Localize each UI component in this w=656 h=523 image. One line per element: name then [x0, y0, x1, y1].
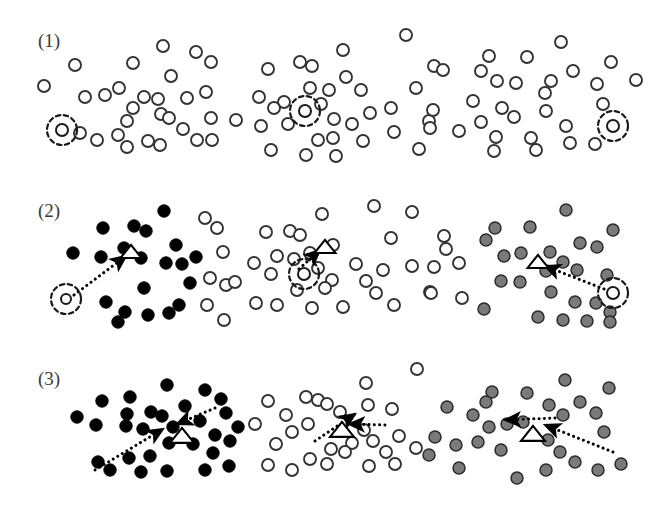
- data-point-black: [223, 460, 235, 472]
- data-point-white: [319, 282, 331, 294]
- data-point-white: [555, 36, 567, 48]
- data-point-white: [205, 112, 217, 124]
- cluster-centre-triangle: [121, 245, 142, 258]
- seed-dashed-ring: [51, 284, 81, 314]
- data-point-gray: [517, 416, 529, 428]
- data-point-black: [92, 456, 104, 468]
- data-point-white: [249, 418, 261, 430]
- data-point-white: [230, 114, 242, 126]
- data-point-gray: [607, 224, 619, 236]
- data-point-white: [406, 206, 418, 218]
- data-point-gray: [574, 396, 586, 408]
- seed-point: [607, 120, 619, 132]
- data-point-white: [300, 391, 312, 403]
- data-point-black: [161, 379, 173, 391]
- data-point-white: [248, 257, 260, 269]
- data-point-white: [488, 145, 500, 157]
- data-point-black: [142, 309, 154, 321]
- data-point-black: [170, 239, 182, 251]
- data-point-black: [135, 252, 147, 264]
- data-point-black: [199, 464, 211, 476]
- data-point-white: [79, 91, 91, 103]
- data-point-white: [388, 126, 400, 138]
- shift-arrow: [545, 425, 613, 452]
- row-label-2: (2): [38, 200, 60, 222]
- data-point-gray: [495, 444, 507, 456]
- data-point-white: [337, 44, 349, 56]
- cluster-centre-layer: [121, 240, 549, 443]
- data-point-gray: [590, 407, 602, 419]
- data-point-black: [209, 429, 221, 441]
- data-point-white: [340, 71, 352, 83]
- data-point-gray: [480, 396, 492, 408]
- data-point-white: [262, 395, 274, 407]
- data-point-white: [438, 230, 450, 242]
- data-point-white: [304, 247, 316, 259]
- data-point-gray: [603, 382, 615, 394]
- seed-dashed-ring: [47, 115, 77, 145]
- data-point-white: [316, 208, 328, 220]
- data-point-gray: [511, 472, 523, 484]
- data-point-white: [200, 86, 212, 98]
- data-point-gray: [423, 449, 435, 461]
- data-point-gray: [441, 401, 453, 413]
- data-point-white: [560, 120, 572, 132]
- data-point-white: [440, 243, 452, 255]
- data-point-gray: [472, 436, 484, 448]
- data-point-white: [521, 51, 533, 63]
- data-point-black: [90, 419, 102, 431]
- data-point-gray: [601, 269, 613, 281]
- data-point-black: [207, 447, 219, 459]
- data-point-gray: [524, 221, 536, 233]
- data-point-white: [262, 63, 274, 75]
- shift-arrow: [177, 408, 215, 424]
- data-point-white: [302, 418, 314, 430]
- data-point-white: [199, 212, 211, 224]
- data-point-white: [280, 409, 292, 421]
- data-point-black: [187, 438, 199, 450]
- data-point-gray: [581, 315, 593, 327]
- data-point-white: [530, 144, 542, 156]
- data-point-white: [360, 275, 372, 287]
- data-point-black: [158, 205, 170, 217]
- data-point-white: [38, 80, 50, 92]
- data-point-white: [510, 77, 522, 89]
- data-point-gray: [514, 276, 526, 288]
- shift-arrow-layer: [74, 250, 613, 470]
- data-point-white: [250, 297, 262, 309]
- data-point-white: [282, 118, 294, 130]
- cluster-centre-triangle: [528, 255, 549, 268]
- data-point-gray: [498, 250, 510, 262]
- data-point-white: [321, 398, 333, 410]
- data-point-white: [127, 102, 139, 114]
- data-point-white: [540, 105, 552, 117]
- data-point-white: [112, 129, 124, 141]
- data-point-white: [367, 435, 379, 447]
- data-point-black: [100, 296, 112, 308]
- data-point-white: [138, 91, 150, 103]
- data-point-gray: [604, 316, 616, 328]
- data-point-gray: [521, 387, 533, 399]
- data-point-white: [337, 301, 349, 313]
- data-point-white: [152, 93, 164, 105]
- data-point-white: [312, 134, 324, 146]
- data-point-white: [427, 104, 439, 116]
- data-point-black: [145, 406, 157, 418]
- data-point-black: [104, 464, 116, 476]
- data-point-white: [154, 139, 166, 151]
- data-point-black: [138, 282, 150, 294]
- data-point-white: [350, 258, 362, 270]
- data-point-white: [368, 200, 380, 212]
- data-point-black: [156, 410, 168, 422]
- data-point-white: [191, 134, 203, 146]
- data-point-black: [224, 435, 236, 447]
- data-point-white: [508, 111, 520, 123]
- data-point-gray: [569, 456, 581, 468]
- data-point-gray: [544, 246, 556, 258]
- row-label-3: (3): [38, 368, 60, 390]
- data-point-black: [194, 415, 206, 427]
- data-point-white: [346, 118, 358, 130]
- data-point-white: [69, 59, 81, 71]
- data-point-white: [181, 92, 193, 104]
- data-point-gray: [467, 409, 479, 421]
